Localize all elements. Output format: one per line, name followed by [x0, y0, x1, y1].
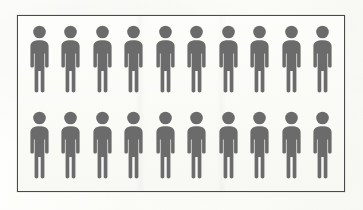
person-icon — [217, 111, 240, 180]
person-icon — [59, 25, 82, 94]
person-icon — [280, 25, 303, 94]
person-icon — [311, 25, 334, 94]
person-icon — [248, 25, 271, 94]
figure-frame-border — [17, 15, 345, 192]
pictogram-row-2 — [18, 111, 344, 181]
person-icon — [311, 111, 334, 180]
person-icon — [91, 111, 114, 180]
person-icon — [280, 111, 303, 180]
pictogram-page — [0, 0, 363, 210]
person-icon — [154, 111, 177, 180]
person-icon — [91, 25, 114, 94]
person-icon — [59, 111, 82, 180]
person-icon — [185, 25, 208, 94]
person-icon — [185, 111, 208, 180]
person-icon — [122, 111, 145, 180]
pictogram-rows-container — [18, 16, 344, 191]
person-icon — [154, 25, 177, 94]
person-icon — [248, 111, 271, 180]
person-icon — [28, 25, 51, 94]
person-icon — [217, 25, 240, 94]
pictogram-row-1 — [18, 25, 344, 95]
person-icon — [122, 25, 145, 94]
person-icon — [28, 111, 51, 180]
